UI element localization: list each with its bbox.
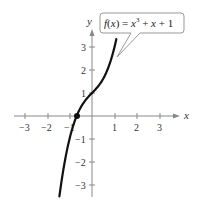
x-tick-label: −3	[19, 122, 30, 133]
y-axis	[90, 29, 95, 197]
y-tick-label: −3	[75, 180, 86, 191]
x-tick-label: −2	[41, 122, 52, 133]
callout-label: f(x) = x3 + x + 1	[104, 16, 173, 30]
x-tick-label: 1	[112, 122, 117, 133]
y-tick-label: −1	[75, 134, 86, 145]
zero-point-marker	[74, 113, 80, 119]
function-curve	[59, 39, 116, 196]
y-tick-label: 1	[81, 88, 86, 99]
y-axis-label: y	[86, 15, 92, 27]
x-tick-label: 2	[134, 122, 139, 133]
x-tick-label: 3	[157, 122, 162, 133]
x-axis	[14, 114, 180, 119]
x-axis-label: x	[183, 109, 189, 121]
x-axis-arrow-icon	[173, 114, 180, 119]
y-axis-arrow-icon	[90, 29, 95, 36]
y-tick-label: 3	[81, 42, 86, 53]
y-tick-label: −2	[75, 157, 86, 168]
y-tick-label: 2	[81, 65, 86, 76]
function-graph: x y −3 −2 −1 1 2 3 3 2 1 −1 −2 −3 f(x) =…	[0, 0, 200, 203]
